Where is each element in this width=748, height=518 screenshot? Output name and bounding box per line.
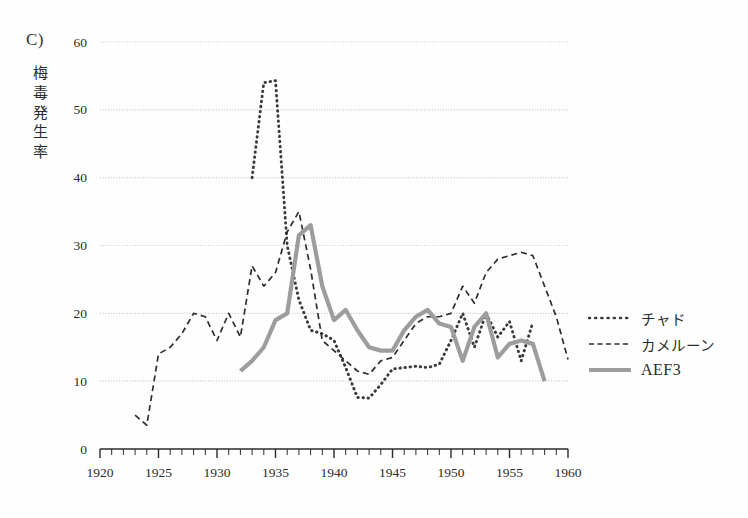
- gridlines: [100, 42, 568, 381]
- x-tick-label: 1945: [379, 465, 406, 480]
- y-tick-label: 10: [74, 374, 88, 389]
- x-tick-label: 1930: [204, 465, 231, 480]
- x-tick-label: 1960: [555, 465, 582, 480]
- y-tick-label: 40: [74, 170, 88, 185]
- chart-plot-area: 0102030405060 19201925193019351940194519…: [0, 0, 748, 518]
- x-tick-label: 1955: [496, 465, 523, 480]
- legend-label-chad: チャド: [641, 308, 686, 329]
- figure-panel-c: C) 梅 毒 発 生 率 0102030405060 1920192519301…: [0, 0, 748, 518]
- y-tick-label: 20: [74, 306, 88, 321]
- legend-label-aef3: AEF3: [641, 361, 681, 379]
- x-tick-label: 1950: [438, 465, 465, 480]
- legend-item-cameroun[interactable]: カメルーン: [588, 331, 743, 357]
- x-axis-ticks: 192019251930193519401945195019551960: [87, 465, 582, 480]
- y-tick-label: 50: [74, 102, 88, 117]
- legend-swatch-dotted-icon: [588, 312, 632, 324]
- legend-swatch-dashed-icon: [588, 338, 632, 350]
- x-tick-label: 1935: [262, 465, 289, 480]
- legend-item-aef3[interactable]: AEF3: [588, 357, 743, 383]
- x-tick-label: 1920: [87, 465, 114, 480]
- series-line-aef3: [240, 225, 544, 381]
- y-tick-label: 30: [74, 238, 88, 253]
- x-tick-label: 1925: [145, 465, 172, 480]
- y-axis-ticks: 0102030405060: [74, 35, 88, 457]
- y-tick-label: 60: [74, 35, 88, 50]
- x-axis: [100, 449, 568, 458]
- y-tick-label: 0: [80, 442, 87, 457]
- data-series-layer: [135, 81, 568, 426]
- legend-label-cameroun: カメルーン: [641, 334, 715, 355]
- legend: チャド カメルーン AEF3: [588, 305, 743, 383]
- legend-swatch-solid-icon: [588, 364, 632, 376]
- x-tick-label: 1940: [321, 465, 348, 480]
- legend-item-chad[interactable]: チャド: [588, 305, 743, 331]
